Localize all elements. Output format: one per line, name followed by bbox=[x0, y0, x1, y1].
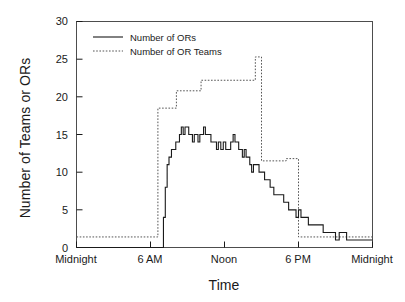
chart-figure: Number of Teams or ORs Time 30 25 20 15 … bbox=[0, 0, 405, 302]
legend-label-ors: Number of ORs bbox=[130, 32, 196, 43]
series-line-or-teams bbox=[77, 57, 373, 237]
plot-area: Number of ORs Number of OR Teams bbox=[0, 0, 405, 302]
x-axis-ticks bbox=[77, 242, 373, 248]
series-line-ors bbox=[77, 127, 373, 248]
y-axis-ticks bbox=[77, 22, 83, 248]
legend: Number of ORs Number of OR Teams bbox=[93, 32, 222, 57]
legend-label-or-teams: Number of OR Teams bbox=[130, 46, 222, 57]
plot-frame bbox=[77, 22, 373, 248]
